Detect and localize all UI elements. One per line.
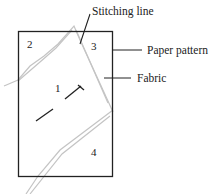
paper-pattern-label: Paper pattern <box>147 44 208 57</box>
stitching-line-label: Stitching line <box>92 5 154 18</box>
paper-pattern-rect <box>19 32 113 177</box>
stitching-line-leader <box>80 14 90 44</box>
fabric-label: Fabric <box>137 72 166 84</box>
paper-piecing-diagram: Stitching line Paper pattern Fabric 1 2 … <box>0 0 216 194</box>
region-label-4: 4 <box>91 146 97 158</box>
region-label-3: 3 <box>91 40 97 52</box>
region-label-2: 2 <box>27 38 33 50</box>
fabric-piece <box>4 26 113 194</box>
region-label-1: 1 <box>55 82 61 94</box>
